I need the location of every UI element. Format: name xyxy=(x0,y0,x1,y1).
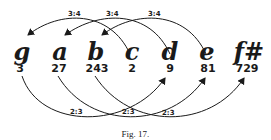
value-e: 81 xyxy=(193,63,223,75)
arc-g-to-d xyxy=(22,76,165,117)
ratio-label-bottom-3: 2:3 xyxy=(162,109,175,117)
value-b: 243 xyxy=(82,63,112,75)
figure-17-diagram: 3:4 3:4 3:4 g a b c d e f# 3 27 243 2 9 … xyxy=(0,0,271,140)
ratio-label-top-1: 3:4 xyxy=(68,10,81,18)
ratio-label-top-3: 3:4 xyxy=(148,10,161,18)
figure-caption: Fig. 17. xyxy=(0,129,271,139)
ratio-label-top-2: 3:4 xyxy=(106,10,119,18)
note-c: c xyxy=(120,40,144,64)
note-a: a xyxy=(48,40,72,64)
note-e: e xyxy=(195,40,219,64)
note-d: d xyxy=(158,40,182,64)
ratio-label-bottom-2: 2:3 xyxy=(122,108,135,116)
value-f-sharp: 729 xyxy=(232,63,262,75)
value-c: 2 xyxy=(117,63,147,75)
ratio-label-bottom-1: 2:3 xyxy=(70,108,83,116)
arc-d-to-a xyxy=(65,18,170,54)
note-f-sharp: f# xyxy=(232,40,266,64)
note-b: b xyxy=(84,40,108,64)
arc-c-to-g xyxy=(28,18,130,54)
value-d: 9 xyxy=(155,63,185,75)
note-g: g xyxy=(10,40,34,64)
value-g: 3 xyxy=(5,63,35,75)
value-a: 27 xyxy=(44,63,74,75)
